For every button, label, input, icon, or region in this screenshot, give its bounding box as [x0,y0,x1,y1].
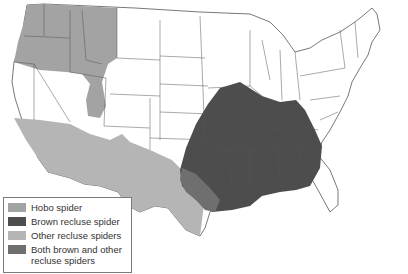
legend-label: Both brown and other recluse spiders [31,244,127,266]
swatch-both-recluse [8,245,26,254]
legend-item-both-recluse: Both brown and other recluse spiders [8,244,127,266]
legend-label: Hobo spider [31,202,82,213]
legend-label: Brown recluse spider [31,216,120,227]
map-legend: Hobo spider Brown recluse spider Other r… [3,197,132,273]
swatch-other-recluse [8,231,26,240]
legend-item-brown-recluse: Brown recluse spider [8,216,127,227]
legend-label: Other recluse spiders [31,230,121,241]
legend-item-other-recluse: Other recluse spiders [8,230,127,241]
swatch-brown-recluse [8,217,26,226]
swatch-hobo-spider [8,203,26,212]
legend-item-hobo-spider: Hobo spider [8,202,127,213]
